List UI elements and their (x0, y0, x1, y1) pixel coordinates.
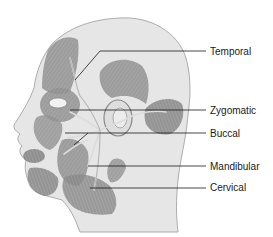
label-temporal: Temporal (210, 46, 251, 58)
label-mandibular: Mandibular (210, 161, 259, 173)
head-anatomy-illustration (0, 0, 273, 237)
label-zygomatic: Zygomatic (210, 105, 256, 117)
eye (49, 98, 67, 108)
label-buccal: Buccal (210, 128, 240, 140)
lips (23, 149, 45, 163)
ear-inner (113, 108, 127, 128)
label-cervical: Cervical (210, 182, 246, 194)
